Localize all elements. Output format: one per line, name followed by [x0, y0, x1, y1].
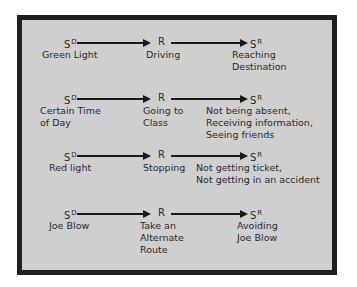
sr-label: Avoiding Joe Blow — [237, 220, 278, 244]
sd-label: Joe Blow — [49, 220, 89, 232]
r-label: Take an Alternate Route — [140, 220, 184, 256]
r-symbol: R — [158, 207, 165, 219]
arrow-right-icon — [171, 42, 246, 44]
sd-label: Red light — [49, 162, 91, 174]
r-symbol: R — [158, 92, 165, 104]
arrow-right-icon — [77, 42, 149, 44]
sr-label: Not being absent, Receiving information,… — [206, 105, 313, 141]
arrow-right-icon — [77, 98, 149, 100]
r-label: Stopping — [143, 162, 185, 174]
r-symbol: R — [158, 36, 165, 48]
sr-label: Reaching Destination — [232, 49, 287, 73]
r-symbol: R — [158, 149, 165, 161]
sd-label: Green Light — [42, 49, 98, 61]
r-label: Driving — [146, 49, 180, 61]
r-label: Going to Class — [143, 105, 183, 129]
arrow-right-icon — [77, 213, 149, 215]
sd-label: Certain Time of Day — [40, 105, 101, 129]
arrow-right-icon — [77, 155, 149, 157]
arrow-right-icon — [171, 155, 246, 157]
arrow-right-icon — [171, 213, 246, 215]
arrow-right-icon — [171, 98, 246, 100]
sr-label: Not getting ticket, Not getting in an ac… — [196, 162, 320, 186]
